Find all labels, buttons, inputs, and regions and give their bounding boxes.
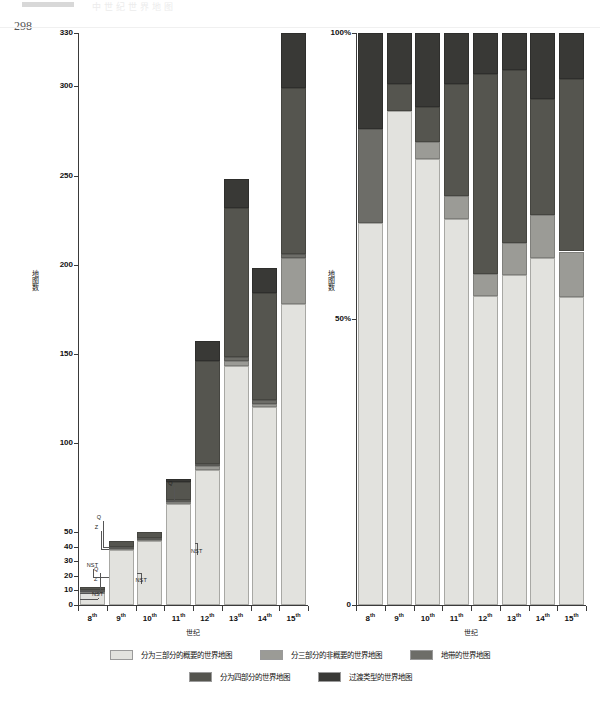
y-tick — [74, 547, 78, 548]
bar-segment — [252, 407, 277, 605]
y-tick-label: 50% — [322, 314, 351, 323]
y-tick-label: 300 — [40, 81, 73, 90]
x-tick — [107, 606, 108, 611]
x-tick — [222, 606, 223, 611]
bar-segment — [358, 129, 383, 224]
y-tick — [74, 33, 78, 34]
x-tick-label: 13th — [502, 612, 526, 623]
y-tick — [352, 33, 356, 34]
x-tick-label: 13th — [224, 612, 248, 623]
bar-segment — [281, 88, 306, 254]
bar-segment — [224, 366, 249, 605]
x-tick — [557, 606, 558, 611]
x-tick — [78, 606, 79, 611]
bar-segment — [224, 357, 249, 361]
y-tick-label: 0 — [322, 600, 351, 609]
x-tick — [385, 606, 386, 611]
y-tick-label: 150 — [40, 349, 73, 358]
x-tick-label: 12th — [195, 612, 219, 623]
bar-segment — [109, 547, 134, 549]
y-tick — [74, 590, 78, 591]
bar-segment — [530, 99, 555, 215]
annotation-leader — [93, 577, 109, 578]
bar-segment — [80, 587, 105, 590]
bar-segment — [502, 33, 527, 70]
bar-segment — [281, 258, 306, 304]
legend-label: 分为三部分的概要的世界地图 — [141, 649, 232, 660]
x-tick-label: 15th — [282, 612, 306, 623]
bar-segment — [559, 79, 584, 252]
x-tick-label: 11th — [445, 612, 469, 623]
bar-segment — [502, 243, 527, 275]
y-tick — [74, 532, 78, 533]
chart-absolute-counts: 01020304050100150200250300330地图数8th9th10… — [0, 0, 320, 645]
y-axis-title: 地图数 — [326, 270, 336, 291]
bar-segment — [166, 502, 191, 504]
bar-segment — [195, 470, 220, 605]
bar-segment — [559, 297, 584, 605]
y-tick-label: 100 — [40, 438, 73, 447]
legend-item: 分为四部分的世界地图 — [189, 671, 290, 682]
bar-segment — [195, 341, 220, 361]
legend-row-1: 分为三部分的概要的世界地图分三部分的非概要的世界地图地带的世界地图 — [0, 649, 600, 660]
bar-segment — [224, 179, 249, 208]
bar-segment — [109, 550, 134, 605]
bar-segment — [109, 541, 134, 547]
y-tick — [74, 576, 78, 577]
x-tick — [471, 606, 472, 611]
x-tick-label: 9th — [387, 612, 411, 623]
bar-segment — [166, 504, 191, 605]
x-tick — [164, 606, 165, 611]
legend-swatch — [318, 672, 341, 682]
x-tick-label: 8th — [80, 612, 104, 623]
y-tick — [74, 176, 78, 177]
bar-segment — [387, 84, 412, 110]
legend-swatch — [189, 672, 212, 682]
y-tick-label: 200 — [40, 260, 73, 269]
y-tick — [74, 265, 78, 266]
annotation-label: Z — [95, 524, 99, 530]
y-tick-label: 40 — [40, 542, 73, 551]
x-tick — [279, 606, 280, 611]
y-tick — [74, 443, 78, 444]
annotation-label: NST — [87, 562, 99, 568]
x-axis-title: 世纪 — [356, 627, 586, 637]
bar-segment — [444, 33, 469, 84]
legend-item: 地带的世界地图 — [410, 649, 490, 660]
legend-label: 过渡类型的世界地图 — [349, 671, 412, 682]
x-tick — [193, 606, 194, 611]
bar-segment — [473, 274, 498, 296]
annotation-label: Q — [168, 480, 172, 486]
x-tick-label: 14th — [253, 612, 277, 623]
bar-segment — [252, 293, 277, 400]
bar-segment — [530, 258, 555, 605]
x-tick-label: 15th — [560, 612, 584, 623]
bar-segment — [281, 33, 306, 88]
bar-segment — [415, 142, 440, 159]
x-tick-label: 9th — [109, 612, 133, 623]
x-tick — [500, 606, 501, 611]
bar-segment — [415, 159, 440, 605]
bar-segment — [444, 219, 469, 605]
bar-segment — [444, 196, 469, 219]
y-axis-line — [356, 33, 357, 606]
annotation-leader — [101, 531, 102, 549]
bar-segment — [195, 361, 220, 464]
x-axis-title: 世纪 — [78, 627, 308, 637]
bar-segment — [502, 70, 527, 243]
annotation-leader — [166, 501, 174, 502]
bar-segment — [195, 466, 220, 470]
annotation-label: NST — [191, 548, 203, 554]
y-tick-label: 330 — [40, 28, 73, 37]
bar-segment — [137, 532, 162, 538]
x-tick-label: 10th — [416, 612, 440, 623]
x-tick — [251, 606, 252, 611]
annotation-label: NST — [92, 591, 104, 597]
bar-segment — [444, 84, 469, 196]
y-tick — [74, 354, 78, 355]
bar-segment — [559, 33, 584, 79]
bar-segment — [473, 33, 498, 74]
bar-10th — [137, 33, 162, 605]
bar-segment — [224, 208, 249, 358]
legend-label: 分为四部分的世界地图 — [220, 671, 290, 682]
